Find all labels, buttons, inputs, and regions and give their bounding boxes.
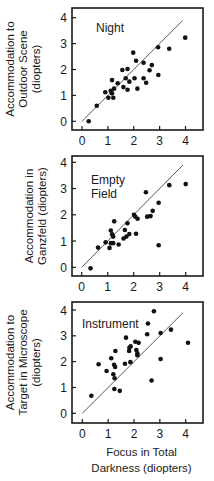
data-point [112, 387, 117, 392]
chart-svg: 0123401234NightAccommodation toOutdoor S… [0, 0, 214, 481]
x-tick-label: 0 [79, 427, 86, 441]
y-axis-title: Outdoor Scene [17, 30, 29, 107]
data-point [127, 232, 132, 237]
y-tick-label: 4 [60, 11, 67, 25]
data-point [135, 86, 140, 91]
data-point [141, 76, 146, 81]
y-tick-label: 3 [60, 37, 67, 51]
data-point [123, 76, 128, 81]
data-point [112, 86, 117, 91]
data-point [147, 68, 152, 73]
data-point [106, 95, 111, 100]
scatter-panel-3: 0123401234InstrumentAccommodation toTarg… [4, 302, 203, 474]
data-point [120, 68, 125, 73]
data-point [146, 321, 151, 326]
data-point [136, 340, 141, 345]
y-axis-title: Accommodation to [4, 21, 16, 116]
x-axis-title: Focus in Total [106, 446, 177, 458]
data-point [145, 332, 150, 337]
data-point [132, 76, 137, 81]
x-tick-label: 0 [78, 280, 85, 294]
data-point [128, 360, 133, 365]
panel-label: Field [91, 187, 117, 201]
x-axis-title: Darkness (diopters) [91, 462, 192, 474]
data-point [107, 246, 112, 251]
data-point [128, 344, 133, 349]
data-point [141, 60, 146, 65]
data-point [123, 228, 128, 233]
panel-label: Instrument [82, 317, 139, 331]
data-point [125, 67, 130, 72]
data-point [96, 245, 101, 250]
data-point [144, 190, 149, 195]
data-point [167, 183, 172, 188]
data-point [167, 46, 172, 51]
y-axis-title: Accommodation to [4, 315, 16, 410]
data-point [121, 85, 126, 90]
scatter-panel-1: 0123401234NightAccommodation toOutdoor S… [4, 8, 203, 148]
x-tick-label: 4 [182, 134, 189, 148]
data-point [112, 376, 117, 381]
y-axis-title: (diopters) [30, 45, 42, 94]
y-tick-label: 2 [60, 355, 67, 369]
data-point [111, 234, 116, 239]
data-point [152, 309, 157, 314]
data-point [149, 378, 154, 383]
data-point [111, 95, 116, 100]
data-point [127, 79, 132, 84]
data-point [156, 73, 161, 78]
data-point [169, 327, 174, 332]
y-tick-label: 3 [60, 329, 67, 343]
x-tick-label: 2 [131, 427, 138, 441]
data-point [110, 78, 115, 83]
y-tick-label: 2 [60, 208, 67, 222]
y-axis-title: Ganzfeld (diopters) [36, 167, 48, 265]
data-point [96, 362, 101, 367]
data-point [156, 243, 161, 248]
data-point [86, 119, 91, 124]
y-axis-title: Target in Microscope [17, 309, 29, 415]
y-axis-title: Accommodation in [23, 169, 35, 264]
x-tick-label: 4 [182, 280, 189, 294]
data-point [144, 80, 149, 85]
data-point [183, 35, 188, 40]
data-point [103, 240, 108, 245]
scatter-panel-2: 0123401234EmptyFieldAccommodation inGanz… [23, 156, 204, 294]
data-point [89, 393, 94, 398]
x-tick-label: 1 [105, 134, 112, 148]
x-tick-label: 3 [156, 134, 163, 148]
data-point [148, 214, 153, 219]
data-point [116, 242, 121, 247]
data-point [94, 103, 99, 108]
y-tick-label: 1 [60, 381, 67, 395]
data-point [158, 331, 163, 336]
x-tick-label: 1 [104, 280, 111, 294]
data-point [135, 353, 140, 358]
x-tick-label: 2 [130, 280, 137, 294]
data-point [124, 335, 129, 340]
data-point [134, 58, 139, 63]
y-tick-label: 1 [60, 235, 67, 249]
data-point [156, 200, 161, 205]
data-point [125, 221, 130, 226]
y-tick-label: 1 [60, 89, 67, 103]
panel-label: Empty [91, 173, 125, 187]
scatter-figure: 0123401234NightAccommodation toOutdoor S… [0, 0, 214, 481]
y-tick-label: 0 [60, 407, 67, 421]
panel-label: Night [96, 21, 125, 35]
data-point [131, 50, 136, 55]
data-point [183, 182, 188, 187]
data-point [109, 356, 114, 361]
data-point [158, 357, 163, 362]
data-point [111, 241, 116, 246]
y-axis-title: (diopters) [30, 338, 42, 387]
data-point [186, 340, 191, 345]
data-point [112, 219, 117, 224]
data-point [117, 389, 122, 394]
data-point [88, 266, 93, 271]
data-point [115, 81, 120, 86]
y-tick-label: 3 [60, 182, 67, 196]
x-tick-label: 3 [157, 427, 164, 441]
data-point [123, 361, 128, 366]
data-point [104, 369, 109, 374]
